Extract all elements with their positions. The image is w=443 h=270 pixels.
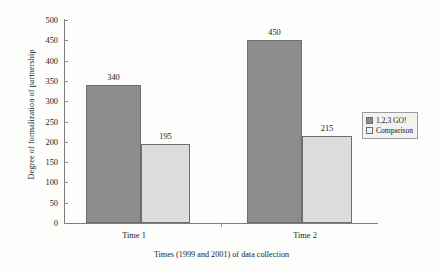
empty-light-square-icon bbox=[366, 127, 373, 134]
legend-item-series-b: Comparison bbox=[366, 126, 413, 136]
y-tick-mark bbox=[64, 40, 68, 41]
y-tick-mark bbox=[64, 20, 68, 21]
bar-value-label: 195 bbox=[159, 132, 172, 141]
y-tick-mark bbox=[64, 81, 68, 82]
y-tick-label: 200 bbox=[45, 137, 58, 146]
legend-label-series-b: Comparison bbox=[376, 127, 413, 135]
y-tick-mark bbox=[64, 223, 68, 224]
y-tick-label: 0 bbox=[54, 219, 58, 228]
x-tick-label-time2: Time 2 bbox=[293, 231, 317, 240]
y-tick-mark bbox=[64, 203, 68, 204]
legend-item-series-a: 1,2,3 GO! bbox=[366, 116, 413, 126]
bar-value-label: 215 bbox=[321, 124, 334, 133]
y-tick-label: 300 bbox=[45, 97, 58, 106]
y-tick-mark bbox=[64, 101, 68, 102]
y-tick-mark bbox=[64, 142, 68, 143]
y-tick-label: 100 bbox=[45, 178, 58, 187]
bar-value-label: 340 bbox=[107, 73, 120, 82]
bar-time2-series-a: 450 bbox=[247, 40, 302, 223]
chart-legend: 1,2,3 GO! Comparison bbox=[362, 112, 418, 139]
plot-area: 0 50 100 150 200 250 300 350 400 450 500… bbox=[64, 20, 378, 223]
bar-time1-series-b: 195 bbox=[141, 144, 190, 223]
legend-label-series-a: 1,2,3 GO! bbox=[376, 117, 407, 125]
y-tick-label: 50 bbox=[50, 198, 58, 207]
y-tick-label: 400 bbox=[45, 56, 58, 65]
bar-value-label: 450 bbox=[268, 28, 281, 37]
y-tick-mark bbox=[64, 122, 68, 123]
y-tick-label: 150 bbox=[45, 158, 58, 167]
y-tick-label: 450 bbox=[45, 36, 58, 45]
filled-dark-square-icon bbox=[366, 117, 373, 124]
bar-time2-series-b: 215 bbox=[302, 136, 352, 223]
x-tick-label-time1: Time 1 bbox=[122, 231, 146, 240]
y-tick-mark bbox=[64, 182, 68, 183]
y-axis-title: Degree of formalization of partnership bbox=[27, 15, 36, 215]
y-tick-label: 350 bbox=[45, 76, 58, 85]
x-axis-title: Times (1999 and 2001) of data collection bbox=[0, 250, 443, 259]
y-tick-label: 250 bbox=[45, 117, 58, 126]
bar-time1-series-a: 340 bbox=[86, 85, 141, 223]
y-tick-mark bbox=[64, 61, 68, 62]
y-tick-mark bbox=[64, 162, 68, 163]
y-tick-label: 500 bbox=[45, 16, 58, 25]
bar-chart: Degree of formalization of partnership 0… bbox=[0, 0, 443, 270]
category-separator-tick bbox=[221, 223, 222, 227]
